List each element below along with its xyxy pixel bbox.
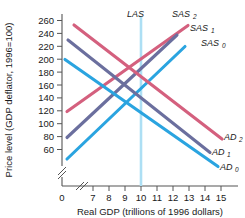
curve-label-ad2: AD [223,132,237,142]
y-axis-title: Price level (GDP deflator, 1996=100) [3,23,14,178]
y-tick-label-80: 80 [43,131,54,142]
y-tick-label-60: 60 [43,144,54,155]
curve-label-ad1-subscript: 1 [227,151,231,158]
x-axis-ticks [93,186,221,191]
curve-label-las: LAS [127,9,144,19]
y-tick-label-220: 220 [38,41,54,52]
curve-labels: LAS SAS 2 SAS 1 SAS 0 AD 2 AD 1 AD 0 [127,9,243,173]
y-tick-label-140: 140 [38,92,54,103]
x-tick-label-13: 13 [184,192,195,203]
y-tick-label-180: 180 [38,67,54,78]
curve-label-ad2-subscript: 2 [238,136,243,143]
curve-label-ad1: AD [211,147,225,157]
x-tick-label-9: 9 [122,192,127,203]
chart-container: 260 240 220 200 180 160 140 120 100 80 6… [0,0,245,218]
y-tick-label-260: 260 [38,15,54,26]
x-tick-label-7: 7 [90,192,95,203]
x-tick-label-10: 10 [136,192,147,203]
curve-label-ad0-subscript: 0 [235,166,239,173]
x-tick-label-14: 14 [200,192,211,203]
x-axis-title: Real GDP (trillions of 1996 dollars) [77,206,223,217]
x-axis-tick-labels: 7 8 9 10 11 12 13 14 15 [90,192,226,203]
y-axis-ticks [57,21,62,150]
curve-label-sas0-subscript: 0 [222,42,226,49]
y-tick-label-100: 100 [38,118,54,129]
y-tick-label-160: 160 [38,80,54,91]
y-tick-label-120: 120 [38,105,54,116]
curve-label-sas2: SAS [172,9,190,19]
macro-as-ad-chart: 260 240 220 200 180 160 140 120 100 80 6… [0,0,245,218]
y-tick-label-240: 240 [38,28,54,39]
curve-label-sas1-subscript: 1 [211,27,215,34]
curve-label-sas0: SAS [201,38,219,48]
y-tick-label-200: 200 [38,54,54,65]
x-tick-label-12: 12 [168,192,179,203]
curve-label-ad0: AD [219,162,233,172]
curve-label-sas2-subscript: 2 [192,13,197,20]
x-tick-label-11: 11 [152,192,162,203]
curve-label-sas1: SAS [190,23,208,33]
origin-label: 0 [59,192,64,203]
y-axis-break-mark-1 [58,167,66,175]
x-tick-label-15: 15 [216,192,227,203]
x-tick-label-8: 8 [106,192,111,203]
y-axis-tick-labels: 260 240 220 200 180 160 140 120 100 80 6… [38,15,54,155]
